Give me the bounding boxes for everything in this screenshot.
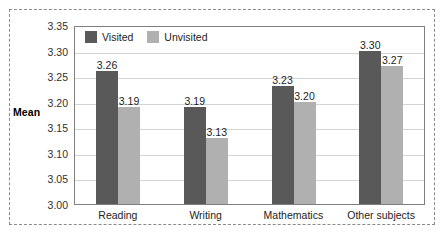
bar-value-label: 3.27	[382, 54, 402, 66]
y-tick-label: 3.10	[22, 148, 68, 160]
y-tick-label: 3.05	[22, 173, 68, 185]
y-tick-label: 3.30	[22, 46, 68, 58]
bar-value-label: 3.20	[294, 90, 314, 102]
bar-group: 3.233.20	[251, 27, 339, 204]
bar-unvisited-reading[interactable]	[118, 107, 140, 204]
bar-visited-reading[interactable]	[96, 71, 118, 204]
bar-unvisited-writing[interactable]	[206, 138, 228, 204]
x-tick-label: Mathematics	[264, 209, 324, 221]
bars-layer: 3.263.193.193.133.233.203.303.27	[75, 27, 424, 204]
y-tick-label: 3.20	[22, 97, 68, 109]
bar-value-label: 3.19	[119, 95, 139, 107]
legend-swatch-icon	[85, 31, 97, 43]
bar-visited-mathematics[interactable]	[272, 86, 294, 204]
legend-label: Unvisited	[164, 31, 207, 43]
bar-value-label: 3.30	[360, 39, 380, 51]
plot-area: 3.263.193.193.133.233.203.303.27 Visited…	[74, 26, 425, 205]
y-tick-label: 3.35	[22, 20, 68, 32]
bar-value-label: 3.26	[97, 59, 117, 71]
x-tick-label: Reading	[98, 209, 137, 221]
x-tick-label: Writing	[189, 209, 221, 221]
chart-figure: Mean 3.353.303.253.203.153.103.053.00 3.…	[0, 0, 445, 242]
legend-item-visited[interactable]: Visited	[85, 31, 133, 43]
bar-value-label: 3.13	[207, 126, 227, 138]
bar-group: 3.263.19	[75, 27, 163, 204]
bar-group: 3.193.13	[163, 27, 251, 204]
bar-unvisited-mathematics[interactable]	[294, 102, 316, 204]
bar-value-label: 3.23	[272, 74, 292, 86]
bar-unvisited-other-subjects[interactable]	[381, 66, 403, 204]
x-tick-label: Other subjects	[347, 209, 415, 221]
legend-swatch-icon	[147, 31, 159, 43]
bar-group: 3.303.27	[338, 27, 425, 204]
chart-legend: VisitedUnvisited	[85, 31, 208, 43]
legend-label: Visited	[102, 31, 133, 43]
bar-visited-other-subjects[interactable]	[359, 51, 381, 204]
bar-visited-writing[interactable]	[184, 107, 206, 204]
y-tick-label: 3.00	[22, 199, 68, 211]
y-tick-label: 3.25	[22, 71, 68, 83]
bar-value-label: 3.19	[185, 95, 205, 107]
legend-item-unvisited[interactable]: Unvisited	[147, 31, 207, 43]
y-tick-label: 3.15	[22, 122, 68, 134]
